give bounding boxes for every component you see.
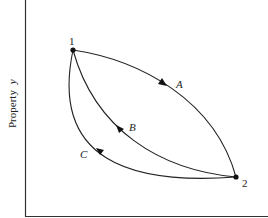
process-diagram: Property y 1 2 A B C <box>0 0 268 218</box>
process-path-c <box>69 50 236 178</box>
process-path-a <box>73 50 236 177</box>
y-axis-label: Property y <box>6 79 18 128</box>
process-label-b: B <box>129 121 136 133</box>
arrow-a-icon <box>158 78 167 86</box>
y-axis-label-variable: y <box>6 79 18 85</box>
process-label-c: C <box>80 148 88 160</box>
process-label-a: A <box>175 78 183 90</box>
process-path-b <box>73 50 236 177</box>
state-point-1 <box>70 47 75 52</box>
state-point-2 <box>233 174 238 179</box>
y-axis-label-text: Property <box>6 90 18 128</box>
state-label-1: 1 <box>69 35 75 47</box>
state-label-2: 2 <box>242 177 248 189</box>
